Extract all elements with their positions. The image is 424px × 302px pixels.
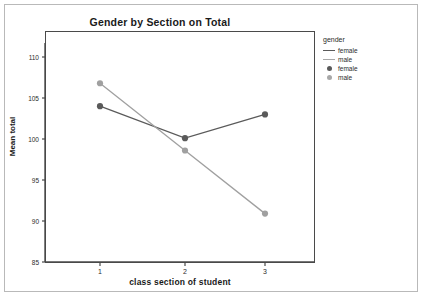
legend-key: [322, 66, 336, 71]
plot-frame: [45, 31, 315, 263]
y-axis-tick-label: 105: [13, 95, 39, 102]
legend-item: male: [322, 55, 414, 63]
chart-title: Gender by Section on Total: [0, 16, 320, 28]
legend: gender femalemalefemalemale: [322, 36, 414, 82]
chart-page: Gender by Section on Total Mean total cl…: [0, 0, 424, 302]
legend-line-swatch: [323, 59, 335, 60]
legend-key: [322, 59, 336, 60]
legend-key: [322, 50, 336, 51]
legend-item: female: [322, 46, 414, 54]
y-axis-tick-label: 95: [13, 177, 39, 184]
x-axis-title: class section of student: [45, 277, 315, 287]
legend-label: male: [336, 74, 352, 81]
legend-label: female: [336, 47, 358, 54]
y-axis-tick-label: 90: [13, 218, 39, 225]
legend-label: female: [336, 65, 358, 72]
legend-item: male: [322, 73, 414, 81]
legend-key: [322, 75, 336, 80]
legend-item: female: [322, 64, 414, 72]
x-axis-tick-label: 2: [175, 268, 195, 275]
x-axis-tick-label: 3: [255, 268, 275, 275]
legend-marker-swatch: [327, 75, 332, 80]
legend-title: gender: [322, 36, 414, 43]
legend-entries: femalemalefemalemale: [322, 46, 414, 81]
legend-marker-swatch: [327, 66, 332, 71]
y-axis-tick-label: 85: [13, 259, 39, 266]
legend-label: male: [336, 56, 352, 63]
x-axis-tick-label: 1: [90, 268, 110, 275]
legend-line-swatch: [323, 50, 335, 51]
y-axis-tick-label: 100: [13, 136, 39, 143]
y-axis-tick-label: 110: [13, 54, 39, 61]
